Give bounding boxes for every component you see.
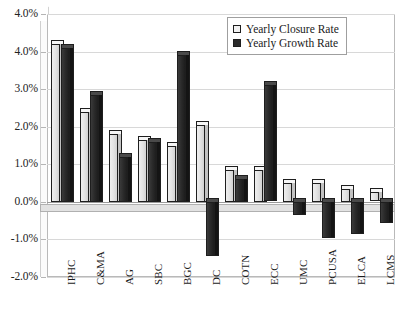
bar-front-face — [148, 142, 157, 202]
bar-side-face — [205, 121, 209, 202]
bar-front-face — [293, 202, 302, 215]
x-axis-tick-label: PCUSA — [327, 249, 338, 285]
x-axis-tick-label: UMC — [298, 260, 309, 285]
legend-swatch-icon-closure-rate — [233, 25, 241, 33]
bar-side-face — [244, 175, 248, 202]
bar-front-face — [119, 157, 128, 202]
bar-front-face — [312, 183, 321, 202]
bar-side-face — [186, 51, 190, 202]
bar-front-face — [167, 146, 176, 202]
bar-front-face — [196, 125, 205, 202]
bar-front-face — [61, 48, 70, 202]
x-axis-tick-label: SBC — [153, 264, 164, 285]
bar-front-face — [235, 179, 244, 202]
bar-side-face — [215, 198, 219, 256]
bar-side-face — [157, 138, 161, 202]
x-axis-tick-label: ELCA — [356, 256, 367, 285]
bar-side-face — [70, 44, 74, 202]
x-axis-tick-label: C&MA — [95, 251, 106, 285]
bar-side-face — [99, 91, 103, 202]
chart-legend: Yearly Closure Rate Yearly Growth Rate — [227, 17, 347, 55]
bar-front-face — [177, 55, 186, 202]
bar-front-face — [206, 202, 215, 256]
bar-chart: 4.0%4.0%3.0%2.0%1.0%0.0%-1.0%-2.0% IPHCC… — [0, 0, 418, 316]
legend-label-closure-rate: Yearly Closure Rate — [246, 22, 339, 36]
bar-front-face — [225, 170, 234, 202]
x-axis-tick-label: IPHC — [66, 260, 77, 285]
bar-front-face — [283, 183, 292, 202]
x-axis-tick-label: LCMS — [385, 255, 396, 285]
bar-front-face — [254, 170, 263, 202]
bar-front-face — [380, 202, 389, 223]
bar-front-face — [341, 189, 350, 202]
bar-front-face — [109, 134, 118, 202]
legend-swatch-icon-growth-rate — [233, 39, 241, 47]
bar-front-face — [322, 202, 331, 238]
legend-label-growth-rate: Yearly Growth Rate — [246, 36, 338, 50]
x-axis-tick-label: BGC — [182, 262, 193, 285]
x-axis-tick-label: COTN — [240, 255, 251, 285]
legend-item-closure-rate: Yearly Closure Rate — [233, 22, 339, 36]
bar-side-face — [128, 153, 132, 202]
bar-front-face — [351, 202, 360, 234]
bar-front-face — [90, 95, 99, 202]
bar-side-face — [273, 81, 277, 201]
legend-item-growth-rate: Yearly Growth Rate — [233, 36, 339, 50]
bar-front-face — [80, 112, 89, 202]
bar-front-face — [51, 44, 60, 202]
x-axis-tick-label: AG — [124, 269, 135, 285]
x-axis-tick-label: DC — [211, 270, 222, 285]
bar-front-face — [370, 192, 379, 201]
bar-side-face — [331, 198, 335, 238]
x-axis-tick-label: ECC — [269, 263, 280, 285]
bar-front-face — [264, 85, 273, 201]
bar-side-face — [360, 198, 364, 234]
bar-front-face — [138, 140, 147, 202]
